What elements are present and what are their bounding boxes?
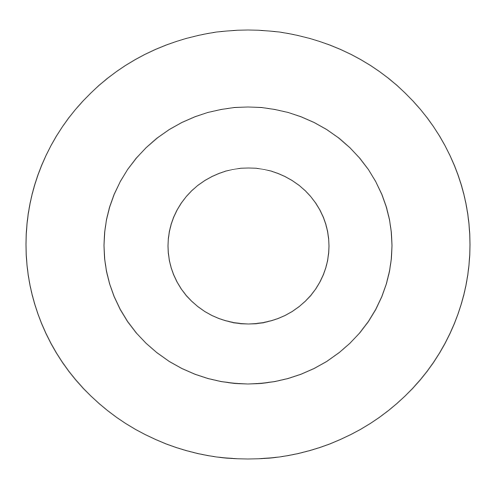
background	[0, 0, 495, 482]
concentric-circles-diagram	[0, 0, 495, 482]
